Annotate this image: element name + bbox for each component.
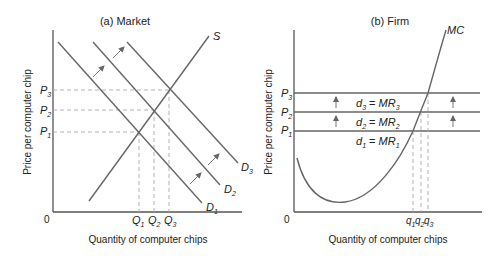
firm-quantity-label-q3: q3 [424,215,434,228]
demand-curve-d1 [58,42,202,203]
shift-arrow-icon [190,173,201,184]
market-price-label-p1: P1 [40,125,51,139]
market-price-label-p2: P2 [40,104,51,118]
demand-label-d2: D2 [224,183,236,197]
supply-curve [89,36,209,201]
demand-mr-label-2: d2 = MR2 [356,116,400,130]
market-origin-label: 0 [44,214,50,225]
mc-label: MC [447,24,464,36]
market-x-axis-label: Quantity of computer chips [89,234,208,245]
market-quantity-label-q3: Q3 [164,214,177,228]
shift-arrow-icon [208,154,219,165]
demand-label-d3: D3 [241,161,253,175]
shift-arrow-icon [93,66,104,77]
demand-mr-label-3: d3 = MR3 [356,97,400,111]
firm-price-label-p1: P1 [281,124,292,138]
market-price-label-p3: P3 [40,84,51,98]
supply-label: S [213,30,221,42]
market-quantity-label-q2: Q2 [148,214,161,228]
demand-mr-label-1: d1 = MR1 [356,135,400,149]
firm-panel: (b) Firm MC d3 = MR3 d2 = MR2 d1 = MR1 P… [263,15,482,245]
firm-y-axis-label: Price per computer chip [263,69,274,175]
diagram-canvas: (a) Market S D1 D2 D3 [0,0,504,258]
firm-price-label-p3: P3 [281,87,292,101]
market-y-axis-label: Price per computer chip [22,69,33,175]
market-quantity-label-q1: Q1 [132,214,145,228]
demand-label-d1: D1 [206,201,218,215]
market-panel: (a) Market S D1 D2 D3 [22,15,253,245]
shift-arrow-icon [113,47,124,58]
demand-curve-d2 [93,42,220,185]
firm-x-axis-label: Quantity of computer chips [329,234,448,245]
market-panel-title: (a) Market [100,15,150,27]
demand-curve-d3 [127,42,238,163]
firm-price-label-p2: P2 [281,106,292,120]
firm-panel-title: (b) Firm [371,15,410,27]
firm-origin-label: 0 [284,214,290,225]
